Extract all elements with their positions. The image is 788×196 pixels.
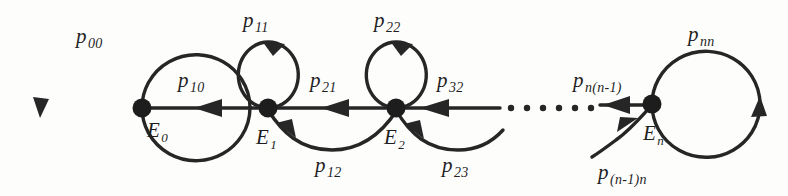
ellipsis-dot — [588, 105, 594, 111]
edge-p12 — [268, 110, 397, 150]
ellipsis-dot — [508, 105, 514, 111]
self-loop-pnn-path — [652, 51, 760, 157]
transition-label-p23: p23 — [442, 155, 467, 176]
edge-p12-arrowhead — [276, 119, 296, 138]
self-loop-p22-path — [366, 42, 426, 108]
state-node-E0[interactable] — [133, 99, 152, 118]
edge-pn-n-1 — [600, 96, 650, 114]
edge-p10-arrowhead — [194, 99, 222, 117]
ellipsis-dot — [524, 105, 530, 111]
ellipsis-between-E2-and-En — [508, 105, 594, 111]
self-loop-p22 — [366, 41, 426, 108]
self-loop-pnn-arrowhead — [751, 96, 767, 117]
state-node-E2[interactable] — [387, 99, 406, 118]
self-loop-p22-arrowhead — [390, 41, 413, 56]
edge-p23 — [396, 110, 503, 150]
state-node-E1[interactable] — [259, 99, 278, 118]
transition-label-pnn: pnn — [688, 24, 713, 45]
state-label-E0: E0 — [147, 120, 167, 141]
transition-label-p11: p11 — [243, 10, 267, 31]
transition-label-p10: p10 — [178, 70, 203, 91]
transition-label-p21: p21 — [310, 70, 335, 91]
state-label-E2: E2 — [384, 127, 404, 148]
self-loop-p00-arrowhead — [33, 97, 49, 118]
transition-label-p00: p00 — [76, 26, 101, 47]
edge-p10 — [143, 99, 266, 117]
transition-label-pnn1: pn(n-1) — [573, 70, 620, 91]
edge-p23-arrowhead — [404, 120, 424, 139]
ellipsis-dot — [556, 105, 562, 111]
self-loop-pnn — [652, 51, 767, 157]
state-label-E1: E1 — [256, 127, 276, 148]
self-loop-p11 — [238, 41, 298, 108]
ellipsis-dot — [540, 105, 546, 111]
transition-label-p22: p22 — [374, 10, 399, 31]
edge-p21-arrowhead — [321, 99, 349, 117]
edge-p32-arrowhead — [420, 99, 449, 117]
state-transition-diagram: p00 p10 p11 p21 p12 p22 p32 p23 pn(n-1) … — [0, 0, 788, 196]
state-node-En[interactable] — [643, 95, 662, 114]
self-loop-p11-path — [238, 42, 298, 108]
state-label-En: En — [643, 123, 663, 144]
transition-label-pn1n: p(n-1)n — [598, 162, 645, 183]
ellipsis-dot — [572, 105, 578, 111]
transition-label-p32: p32 — [437, 70, 462, 91]
transition-label-p12: p12 — [315, 155, 340, 176]
self-loop-p11-arrowhead — [262, 41, 285, 56]
edge-pn-n-1-arrowhead — [603, 96, 630, 114]
